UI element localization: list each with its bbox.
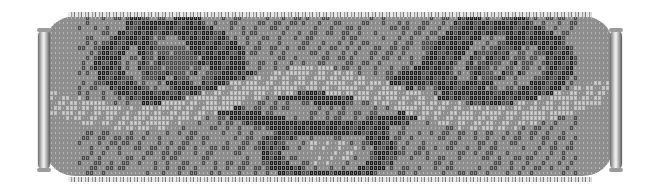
clasp-cap [609,168,623,172]
left-clasp [38,30,50,170]
clasp-cap [37,28,51,32]
bottom-edge-beads [68,177,592,182]
bead-pattern [46,16,612,176]
clasp-cap [609,28,623,32]
right-clasp [610,30,622,170]
clasp-cap [37,168,51,172]
beaded-bracelet: Loom-woven seed bead bracelet with slide… [38,12,622,182]
top-edge-beads [68,12,592,17]
beaded-band [46,16,612,176]
